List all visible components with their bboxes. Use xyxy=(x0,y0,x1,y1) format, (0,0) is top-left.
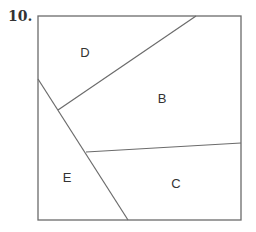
region-label-d: D xyxy=(80,45,89,60)
line-b-c xyxy=(86,143,241,152)
geometry-figure: 10. D B E C xyxy=(0,0,256,232)
line-d-b xyxy=(58,16,196,110)
partitioned-square-diagram: D B E C xyxy=(0,0,256,232)
region-label-c: C xyxy=(171,176,180,191)
line-e xyxy=(38,79,128,220)
outer-square xyxy=(38,16,241,220)
region-label-b: B xyxy=(158,91,167,106)
region-label-e: E xyxy=(63,170,72,185)
